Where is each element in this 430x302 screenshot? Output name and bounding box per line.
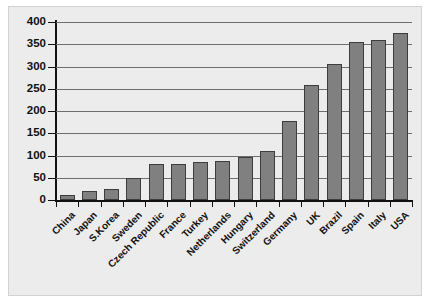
gridline — [56, 22, 412, 23]
plot-area — [56, 22, 412, 200]
y-axis-tick-label: 400 — [2, 16, 46, 28]
y-axis-tick-label: 200 — [2, 105, 46, 117]
x-axis-tick-mark — [190, 201, 191, 207]
bar — [149, 164, 164, 200]
x-axis-tick-mark — [212, 201, 213, 207]
bar — [60, 195, 75, 200]
y-axis-tick-label: 250 — [2, 83, 46, 95]
bar — [238, 157, 253, 200]
x-axis-tick-mark — [56, 201, 57, 207]
x-axis-tick-mark — [167, 201, 168, 207]
y-axis-tick-label: 300 — [2, 61, 46, 73]
y-axis-tick-label: 150 — [2, 127, 46, 139]
x-axis-tick-mark — [101, 201, 102, 207]
bar — [327, 64, 342, 200]
y-axis-tick-label: 50 — [2, 172, 46, 184]
bar — [104, 189, 119, 200]
bar — [371, 40, 386, 200]
bar-chart-figure: 050100150200250300350400 ChinaJapanS.Kor… — [0, 0, 430, 302]
x-axis-tick-mark — [279, 201, 280, 207]
bar — [349, 42, 364, 200]
x-axis-tick-mark — [256, 201, 257, 207]
x-axis-tick-mark — [123, 201, 124, 207]
bar — [393, 33, 408, 200]
bar — [82, 191, 97, 200]
bar — [260, 151, 275, 200]
bar — [215, 161, 230, 200]
bar — [304, 85, 319, 200]
y-axis-tick-label: 350 — [2, 38, 46, 50]
x-axis-tick-mark — [412, 201, 413, 207]
x-axis-tick-mark — [78, 201, 79, 207]
y-axis-tick-label: 0 — [2, 194, 46, 206]
y-axis-tick-label: 100 — [2, 150, 46, 162]
bar — [193, 162, 208, 200]
bar — [171, 164, 186, 200]
bar — [126, 178, 141, 200]
x-axis-tick-mark — [301, 201, 302, 207]
x-axis-tick-mark — [234, 201, 235, 207]
x-axis-tick-mark — [345, 201, 346, 207]
x-axis-tick-mark — [368, 201, 369, 207]
x-axis-tick-mark — [390, 201, 391, 207]
x-axis-tick-mark — [323, 201, 324, 207]
x-axis-tick-mark — [145, 201, 146, 207]
bar — [282, 121, 297, 200]
